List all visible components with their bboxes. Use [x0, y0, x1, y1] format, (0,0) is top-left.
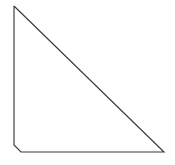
shape-canvas-svg: [0, 0, 175, 165]
drawing-canvas: [0, 0, 175, 165]
canvas-background: [0, 0, 175, 165]
